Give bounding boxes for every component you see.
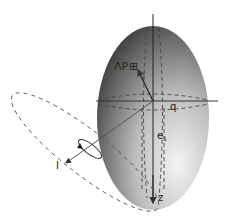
- label-vector-p-box: ⊞: [129, 60, 138, 73]
- label-e1-sub: 1: [163, 135, 167, 142]
- ellipsoid-diagram: ΛP ⊞ j q e 1 I z: [0, 0, 231, 223]
- label-l-axis: I: [56, 160, 59, 171]
- label-vector-p: ΛP: [114, 60, 129, 73]
- label-j: j: [142, 71, 145, 79]
- rotation-arrow-icon: [77, 143, 83, 149]
- label-z-axis: z: [158, 192, 163, 203]
- label-q: q: [170, 101, 176, 112]
